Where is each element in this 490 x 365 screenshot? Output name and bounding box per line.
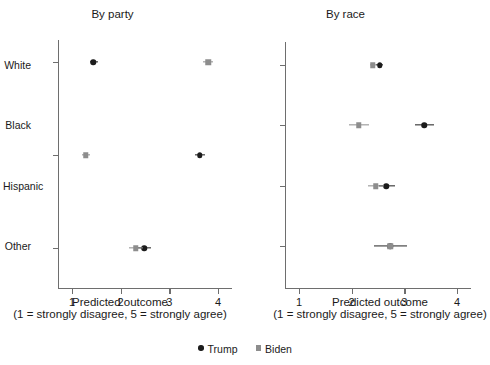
y-tick-label-white: White bbox=[3, 59, 31, 71]
legend-swatch-square-icon bbox=[256, 345, 262, 351]
y-tick-democrat bbox=[53, 155, 58, 156]
y-tick-white bbox=[280, 65, 285, 66]
data-point-biden-hispanic[interactable] bbox=[373, 183, 379, 189]
legend-entry-trump[interactable]: Trump bbox=[198, 342, 237, 355]
y-axis-line bbox=[285, 42, 286, 288]
x-axis-label-by-party: Predicted outcome bbox=[72, 296, 168, 308]
y-tick-republican bbox=[53, 62, 58, 63]
x-tick-3 bbox=[404, 289, 405, 294]
y-tick-label-black: Black bbox=[3, 119, 31, 131]
data-point-trump-democrat[interactable] bbox=[197, 152, 203, 158]
y-tick-black bbox=[280, 125, 285, 126]
data-point-trump-hispanic[interactable] bbox=[384, 183, 390, 189]
x-axis-caption-by-party: Predicted outcome (1 = strongly disagree… bbox=[0, 296, 250, 320]
x-tick-4 bbox=[218, 289, 219, 294]
x-tick-3 bbox=[169, 289, 170, 294]
data-point-biden-republican[interactable] bbox=[206, 59, 212, 65]
legend-swatch-circle-icon bbox=[198, 345, 204, 351]
y-axis-line bbox=[58, 40, 59, 288]
x-axis-caption-by-race: Predicted outcome (1 = strongly disagree… bbox=[250, 296, 490, 320]
x-tick-1 bbox=[72, 289, 73, 294]
y-tick-label-hispanic: Hispanic bbox=[3, 180, 31, 192]
data-point-biden-black[interactable] bbox=[356, 122, 362, 128]
x-axis-sublabel-by-race: (1 = strongly disagree, 5 = strongly agr… bbox=[250, 308, 490, 320]
x-tick-2 bbox=[352, 289, 353, 294]
chart-legend: TrumpBiden bbox=[0, 342, 490, 355]
data-point-trump-white[interactable] bbox=[377, 62, 383, 68]
data-point-biden-democrat[interactable] bbox=[83, 152, 89, 158]
x-axis-line bbox=[285, 288, 471, 289]
x-axis-sublabel-by-party: (1 = strongly disagree, 5 = strongly agr… bbox=[0, 308, 250, 320]
x-axis-label-by-race: Predicted outcome bbox=[332, 296, 428, 308]
y-tick-other bbox=[53, 248, 58, 249]
legend-label-biden: Biden bbox=[265, 343, 292, 355]
legend-entry-biden[interactable]: Biden bbox=[256, 342, 292, 355]
x-tick-1 bbox=[299, 289, 300, 294]
x-tick-2 bbox=[121, 289, 122, 294]
data-point-biden-other[interactable] bbox=[387, 243, 393, 249]
x-tick-4 bbox=[457, 289, 458, 294]
data-point-trump-republican[interactable] bbox=[91, 59, 97, 65]
data-point-biden-white[interactable] bbox=[370, 62, 376, 68]
x-axis-line bbox=[58, 288, 232, 289]
legend-label-trump: Trump bbox=[208, 343, 238, 355]
y-tick-hispanic bbox=[280, 186, 285, 187]
panel-by-race: By race 1234WhiteBlackHispanicOther bbox=[245, 0, 490, 320]
panel-by-party: By party 1234RepublicanDemocratOther bbox=[0, 0, 245, 320]
panel-title-by-race: By race bbox=[223, 8, 468, 20]
data-point-biden-other[interactable] bbox=[133, 245, 139, 251]
panel-title-by-party: By party bbox=[0, 8, 235, 20]
y-tick-label-other: Other bbox=[3, 240, 31, 252]
figure-root: By party 1234RepublicanDemocratOther By … bbox=[0, 0, 490, 365]
data-point-trump-black[interactable] bbox=[422, 122, 428, 128]
y-tick-other bbox=[280, 246, 285, 247]
